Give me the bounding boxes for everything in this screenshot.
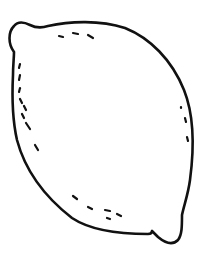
lemon-outline [10,22,193,243]
lemon-drawing [0,0,206,255]
